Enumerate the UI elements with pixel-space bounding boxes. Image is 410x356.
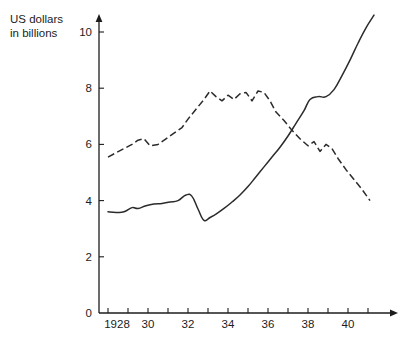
chart-figure: US dollars in billions 246810 1928303234… [0, 0, 410, 356]
y-tick-label: 10 [79, 26, 92, 38]
y-tick-group: 246810 [79, 26, 104, 263]
y-axis-group [96, 14, 103, 313]
y-tick-label: 4 [86, 195, 93, 207]
origin-tick-label: 0 [86, 307, 92, 319]
x-tick-group: 1928303234363840 [104, 308, 368, 330]
x-tick-label: 34 [222, 318, 235, 330]
y-axis-arrowhead [96, 14, 103, 22]
x-tick-label: 36 [262, 318, 275, 330]
solid-series-line [108, 15, 374, 221]
x-tick-label: 40 [342, 318, 355, 330]
x-axis-arrowhead [390, 310, 398, 317]
x-tick-label: 1928 [104, 318, 130, 330]
line-chart-canvas: 246810 1928303234363840 0 [0, 0, 410, 356]
x-tick-label: 30 [142, 318, 155, 330]
y-tick-label: 8 [86, 82, 92, 94]
x-tick-label: 32 [182, 318, 195, 330]
y-tick-label: 6 [86, 138, 92, 150]
y-tick-label: 2 [86, 251, 92, 263]
x-tick-label: 38 [302, 318, 315, 330]
dashed-series-line [108, 91, 370, 201]
